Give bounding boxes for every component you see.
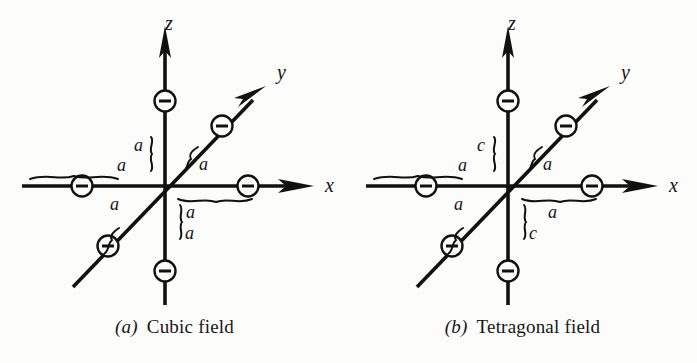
dist-label-y-up: a	[543, 155, 552, 173]
ion-z-negative	[498, 261, 519, 282]
axis-label-x: x	[669, 175, 678, 195]
caption-letter-b: (b)	[445, 316, 468, 337]
dist-label-y-up: a	[199, 155, 208, 173]
ion-z-positive	[155, 91, 176, 112]
dist-label-z-down: a	[185, 224, 194, 242]
brace-z-down	[180, 205, 182, 239]
dist-label-x-right: a	[548, 203, 557, 221]
dist-label-x-left: a	[458, 156, 467, 174]
dist-label-y-down: a	[454, 195, 463, 213]
axis-label-y: y	[621, 62, 630, 82]
figure-page: z x y a a a a a a (a)Cubic field	[0, 0, 697, 363]
ion-x-positive	[238, 176, 259, 197]
brace-z-up	[494, 137, 496, 171]
caption-letter-a: (a)	[115, 316, 138, 337]
dist-label-z-up: a	[134, 136, 143, 154]
axis-label-z: z	[165, 13, 173, 33]
panel-tetragonal-field: z x y c a a a a c (b)Tetragonal field	[348, 0, 697, 363]
ion-y-positive	[212, 116, 233, 137]
brace-x-right	[522, 199, 596, 202]
caption-panel-b: (b)Tetragonal field	[348, 316, 697, 338]
brace-z-down	[524, 205, 526, 239]
ion-z-negative	[155, 261, 176, 282]
caption-panel-a: (a)Cubic field	[0, 316, 349, 338]
ion-y-positive	[556, 116, 577, 137]
cubic-field-diagram	[0, 0, 349, 320]
axis-label-x: x	[325, 175, 334, 195]
ion-x-positive	[582, 176, 603, 197]
ion-z-positive	[498, 91, 519, 112]
dist-label-x-left: a	[117, 156, 126, 174]
caption-text-a: Cubic field	[147, 316, 234, 337]
dist-label-y-down: a	[110, 195, 119, 213]
ion-x-negative	[72, 176, 93, 197]
caption-text-b: Tetragonal field	[477, 316, 601, 337]
tetragonal-field-diagram	[348, 0, 697, 320]
brace-z-up	[151, 137, 153, 171]
dist-label-z-up: c	[477, 136, 485, 154]
panel-cubic-field: z x y a a a a a a (a)Cubic field	[0, 0, 349, 363]
axis-label-z: z	[508, 13, 516, 33]
axis-label-y: y	[277, 62, 286, 82]
dist-label-z-down: c	[529, 224, 537, 242]
ion-x-negative	[416, 176, 437, 197]
dist-label-x-right: a	[186, 203, 195, 221]
